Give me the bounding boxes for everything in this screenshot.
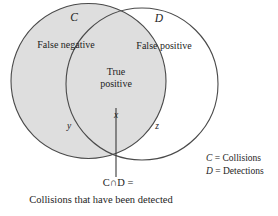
region-label-true-positive: True positive [100,66,132,90]
legend-row-detections: D = Detections [206,165,264,178]
set-label-d: D [155,12,163,24]
region-label-false-negative: False negative [37,40,94,51]
true-positive-line-2: positive [100,78,132,90]
legend-meaning-detections: Detections [223,166,264,176]
legend-meaning-collisions: Collisions [222,153,261,163]
variable-label-z: z [155,121,159,131]
legend-row-collisions: C = Collisions [206,152,264,165]
legend: C = Collisions D = Detections [206,152,264,178]
variable-label-x: x [114,110,118,120]
true-positive-line-1: True [100,66,132,78]
venn-diagram-canvas [0,0,278,216]
circle-set-collisions [11,4,166,159]
region-label-false-positive: False positive [136,41,191,52]
venn-diagram-figure: C D False negative False positive True p… [0,0,278,216]
variable-label-y: y [67,121,71,131]
set-label-c: C [70,11,78,23]
caption-description: Collisions that have been detected [29,194,172,205]
legend-separator-d: = [213,166,223,176]
legend-symbol-d: D [206,166,213,176]
legend-separator-c: = [212,153,222,163]
caption-operation: C∩D = [103,177,134,188]
